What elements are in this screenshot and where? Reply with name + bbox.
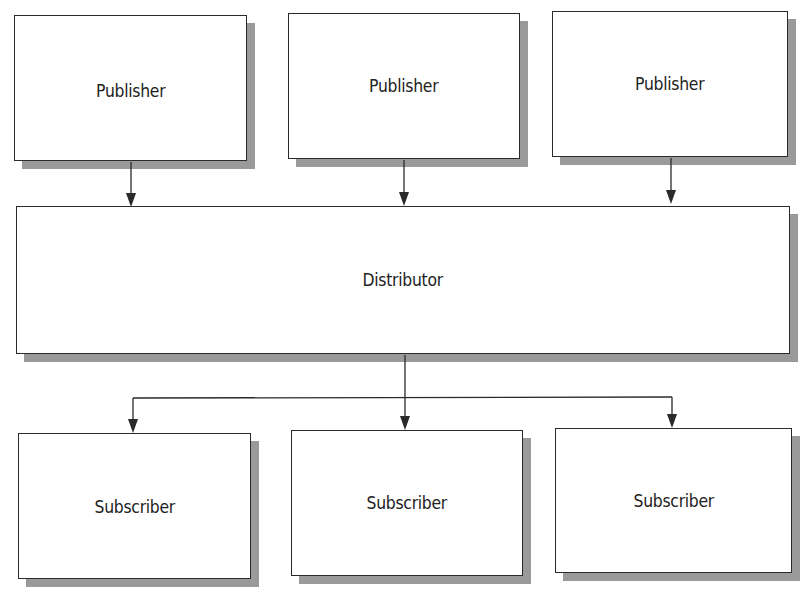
- subscriber-label: Subscriber: [367, 493, 448, 513]
- publisher-to-distributor-arrow-2: [399, 160, 409, 206]
- publisher-to-distributor-arrow-1: [126, 162, 136, 207]
- publisher-node-2: Publisher: [288, 13, 520, 159]
- publisher-label: Publisher: [635, 74, 704, 94]
- subscriber-label: Subscriber: [633, 491, 714, 511]
- publisher-label: Publisher: [369, 76, 438, 96]
- distributor-to-subscriber-arrow-3: [667, 397, 677, 428]
- distributor-trunk-line: [133, 355, 672, 398]
- arrowhead-icon: [399, 192, 409, 206]
- arrowhead-icon: [128, 419, 138, 433]
- publisher-label: Publisher: [96, 81, 165, 101]
- publisher-node-1: Publisher: [14, 15, 247, 161]
- arrowhead-icon: [666, 190, 676, 204]
- subscriber-node-2: Subscriber: [291, 430, 523, 576]
- distributor-to-subscriber-arrow-2: [400, 398, 410, 430]
- arrowhead-icon: [126, 193, 136, 207]
- distributor-to-subscriber-arrow-1: [128, 398, 138, 433]
- subscriber-label: Subscriber: [94, 497, 175, 517]
- subscriber-node-1: Subscriber: [18, 433, 251, 579]
- subscriber-node-3: Subscriber: [555, 428, 792, 573]
- arrowhead-icon: [667, 414, 677, 428]
- publisher-node-3: Publisher: [552, 11, 788, 157]
- publisher-to-distributor-arrow-3: [666, 158, 676, 204]
- distributor-node: Distributor: [16, 206, 790, 354]
- distributor-label: Distributor: [363, 270, 443, 290]
- arrowhead-icon: [400, 416, 410, 430]
